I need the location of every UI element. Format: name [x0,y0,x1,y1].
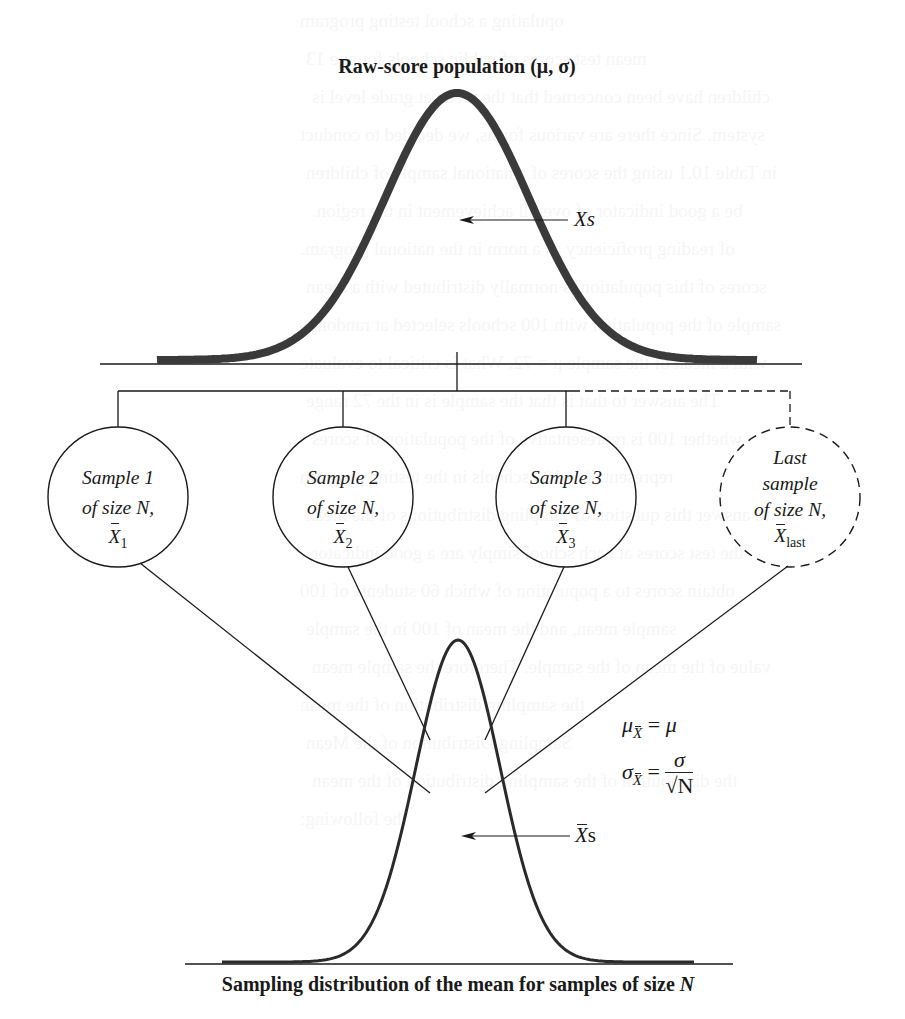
mean-formula: μX = μ [622,712,677,742]
raw-scores-label: Xs [574,207,595,232]
sigma-over-root-n: σ √N [665,748,693,799]
standard-error-formula: σX = σ √N [622,748,693,799]
sample-means-label: Xs [575,823,596,848]
sampling-distribution-curve [185,640,733,964]
last-sample-label: Last sample of size N, Xlast [720,445,860,556]
sampling-normal-curve [222,640,694,962]
population-curve [100,93,802,364]
sample-3-label: Sample 3 of size N, X3 [496,463,636,559]
diagram-canvas: opulating a school testing programmean t… [0,0,905,1019]
sample-1-label: Sample 1 of size N, X1 [48,463,188,559]
sample-2-label: Sample 2 of size N, X2 [273,463,413,559]
top-arrow [459,216,568,224]
population-title: Raw-score population (μ, σ) [338,55,575,78]
population-normal-curve [157,93,757,360]
sampling-distribution-caption: Sampling distribution of the mean for sa… [222,973,694,996]
